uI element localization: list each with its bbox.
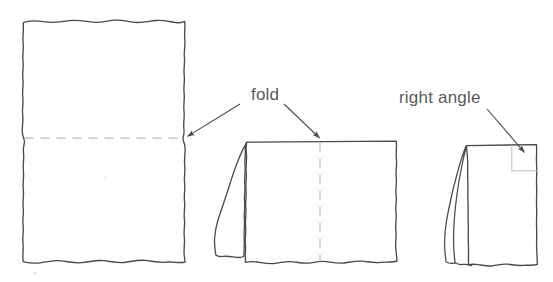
shape-unfolded-sheet [22,20,185,263]
background-speck-2 [104,177,106,179]
fold-label: fold [251,85,279,104]
unfolded-sheet-outline [22,20,185,263]
quarter-folded-body-outline [466,145,537,266]
shape-half-folded-sheet [214,141,397,263]
diagram-canvas: fold right angle [0,0,553,282]
right-angle-label: right angle [399,88,481,107]
background-speck [33,271,36,274]
half-folded-body-outline [245,141,397,263]
paper-folding-diagram: fold right angle [0,0,553,282]
